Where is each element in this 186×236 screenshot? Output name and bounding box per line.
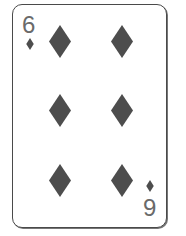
diamond-icon-pip-top-right (111, 25, 133, 58)
card-rank-bottom-right: 9 (143, 196, 156, 220)
card-rank-top-left: 6 (22, 13, 35, 37)
diamond-icon-pip-middle-left (49, 94, 71, 127)
diamond-icon-pip-bottom-right (111, 164, 133, 197)
small-diamond-icon-bottom-right (146, 180, 154, 192)
diamond-icon-pip-top-left (49, 25, 71, 58)
diamond-icon-pip-middle-right (111, 94, 133, 127)
small-diamond-icon-top-left (26, 38, 34, 50)
diamond-icon-pip-bottom-left (49, 164, 71, 197)
